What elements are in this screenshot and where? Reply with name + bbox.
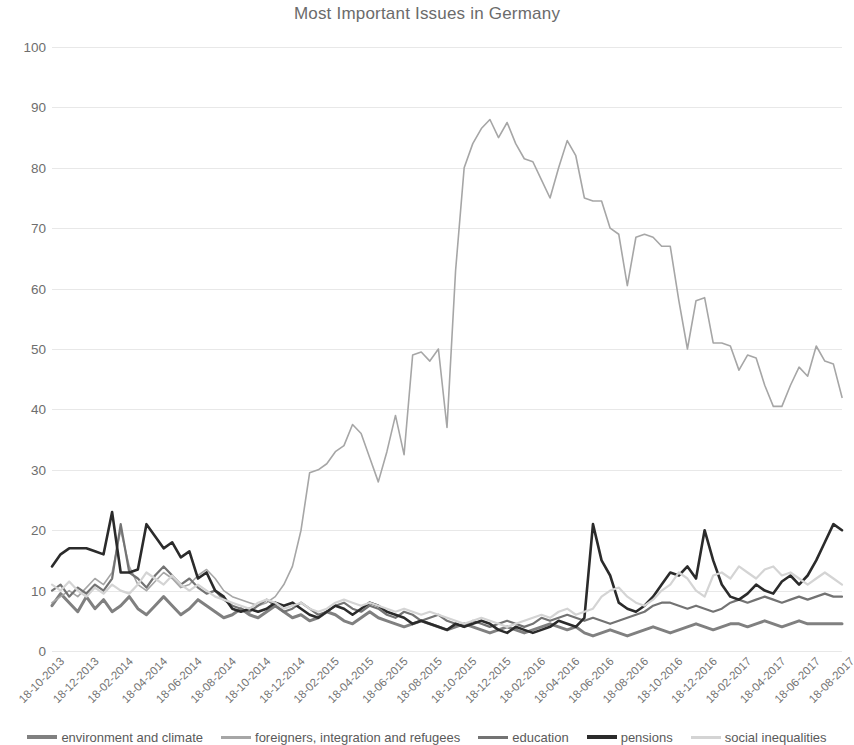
y-axis-tick-label: 10 xyxy=(6,583,46,598)
legend-item[interactable]: social inequalities xyxy=(691,730,827,745)
legend-item[interactable]: pensions xyxy=(587,730,673,745)
legend-color-swatch xyxy=(27,735,57,739)
chart-title: Most Important Issues in Germany xyxy=(0,4,854,24)
legend-color-swatch xyxy=(478,736,508,739)
y-axis-tick-label: 0 xyxy=(6,644,46,659)
y-axis-tick-label: 90 xyxy=(6,100,46,115)
y-axis-tick-label: 70 xyxy=(6,221,46,236)
gridline xyxy=(52,651,842,652)
y-axis-tick-label: 20 xyxy=(6,523,46,538)
y-axis-tick-label: 30 xyxy=(6,462,46,477)
legend-label: pensions xyxy=(621,730,673,745)
legend-item[interactable]: foreigners, integration and refugees xyxy=(221,730,460,745)
legend-label: foreigners, integration and refugees xyxy=(255,730,460,745)
plot-area xyxy=(52,47,842,651)
y-axis-tick-label: 80 xyxy=(6,160,46,175)
series-layer xyxy=(52,47,842,651)
legend-label: education xyxy=(512,730,568,745)
y-axis-tick-label: 100 xyxy=(6,40,46,55)
x-axis: 18-10-201318-12-201318-02-201418-04-2014… xyxy=(52,655,842,717)
legend-item[interactable]: environment and climate xyxy=(27,730,203,745)
series-line xyxy=(52,566,842,626)
legend-label: social inequalities xyxy=(725,730,827,745)
y-axis: 0102030405060708090100 xyxy=(0,47,46,651)
legend-color-swatch xyxy=(221,736,251,739)
legend-color-swatch xyxy=(691,736,721,739)
legend-color-swatch xyxy=(587,735,617,738)
y-axis-tick-label: 60 xyxy=(6,281,46,296)
chart-legend: environment and climateforeigners, integ… xyxy=(0,727,854,745)
legend-label: environment and climate xyxy=(61,730,203,745)
y-axis-tick-label: 50 xyxy=(6,342,46,357)
y-axis-tick-label: 40 xyxy=(6,402,46,417)
series-line xyxy=(52,524,842,627)
series-line xyxy=(52,119,842,605)
chart-container: Most Important Issues in Germany 0102030… xyxy=(0,0,854,745)
legend-item[interactable]: education xyxy=(478,730,568,745)
